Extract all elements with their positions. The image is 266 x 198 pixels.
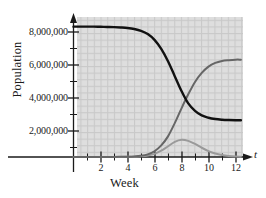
population-chart-figure: 8,000,000 6,000,000 4,000,000 2,000,000 … bbox=[0, 0, 266, 198]
x-tick-label-6: 6 bbox=[145, 162, 165, 173]
x-axis-variable-label: t bbox=[254, 148, 257, 160]
x-axis-title: Week bbox=[110, 176, 139, 191]
x-tick-label-10: 10 bbox=[199, 162, 219, 173]
y-axis-title: Population bbox=[10, 25, 25, 115]
x-tick-label-4: 4 bbox=[118, 162, 138, 173]
x-tick-label-12: 12 bbox=[226, 162, 246, 173]
x-tick-label-2: 2 bbox=[91, 162, 111, 173]
y-tick-label-2000000: 2,000,000 bbox=[0, 125, 68, 137]
x-tick-label-8: 8 bbox=[172, 162, 192, 173]
plot-background-grid bbox=[77, 17, 243, 157]
